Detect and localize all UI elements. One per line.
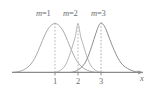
series-label-m3: m=3 — [91, 8, 106, 18]
series-label-m2-val: 2 — [74, 8, 78, 18]
series-label-m2: m=2 — [63, 8, 78, 18]
series-label-m3-val: 3 — [102, 8, 106, 18]
tick-label-x3: 3 — [95, 76, 107, 86]
x-axis-label: x — [140, 73, 144, 83]
tick-label-x1: 1 — [49, 76, 61, 86]
tick-label-x2: 2 — [72, 76, 84, 86]
gaussian-curves-figure: m=1 m=2 m=3 1 2 3 x — [0, 0, 155, 94]
series-label-m1-val: 1 — [47, 8, 51, 18]
series-label-m1: m=1 — [36, 8, 51, 18]
curve-m3 — [70, 23, 142, 73]
